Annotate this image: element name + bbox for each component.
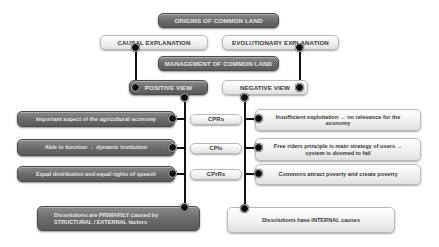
dot-evolutionary [295,43,304,52]
dot-row2-left [168,143,177,152]
positive-conclusion-line2: STRUCTURAL / EXTERNAL factors [54,219,147,225]
management-box: MANAGEMENT OF COMMON LAND [158,56,279,71]
connector-positive-trunk [184,94,186,211]
evolutionary-explanation-box: EVOLUTIONARY EXPLANATION [222,35,339,50]
dot-negative-conclusion [240,204,249,213]
positive-row-2: Able to function → dynamic institution [17,139,175,156]
dot-positive-bottom [180,93,189,102]
dot-row3-left [168,169,177,178]
positive-row-1: Important aspect of the agricultural eco… [17,111,175,127]
negative-row-1: Insufficient exploitation → no relevance… [255,109,421,131]
dot-positive-left [131,83,140,92]
dot-row1-right [254,114,263,123]
cprs-label: CPRs [190,114,242,125]
dot-row3-right [254,169,263,178]
negative-row-2: Free riders principle is main strategy o… [255,138,421,161]
dot-causal [131,43,140,52]
causal-explanation-box: CAUSAL EXPLANATION [100,35,208,50]
dot-negative-right [295,83,304,92]
cpis-label: CPIs [190,143,242,154]
negative-conclusion: Dissolutions have INTERNAL causes [227,207,395,233]
dot-negative-bottom [240,93,249,102]
origins-box: ORIGINS OF COMMON LAND [158,13,279,28]
cprrs-label: CPrRs [190,169,242,180]
dot-row2-right [254,143,263,152]
dot-positive-conclusion [180,203,189,212]
dot-row1-left [168,114,177,123]
positive-row-3: Equal distribution and equal rights of s… [17,166,175,182]
positive-view-box: POSITIVE VIEW [129,80,208,95]
connector-negative-trunk [244,94,246,212]
positive-conclusion: Dissolutions are PRIMARILY caused by STR… [37,206,200,231]
negative-row-3: Commons attract poverty and create pover… [255,164,421,185]
